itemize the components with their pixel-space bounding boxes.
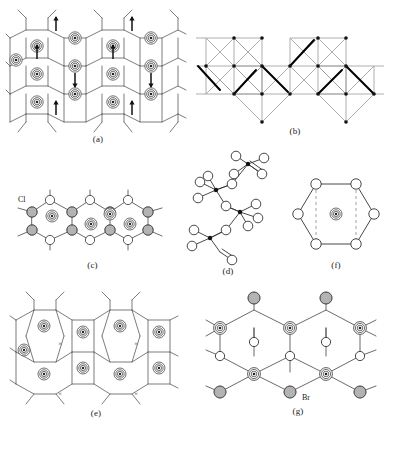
cross-marker: × bbox=[134, 340, 138, 348]
bullseye-site-centre bbox=[330, 208, 342, 220]
panel-b: (b) bbox=[200, 14, 390, 144]
arrow-marker-group bbox=[34, 16, 153, 115]
panel-e-caption: (e) bbox=[12, 408, 180, 418]
panel-a-caption: (a) bbox=[8, 134, 188, 144]
panel-d: (d) bbox=[176, 160, 280, 278]
panel-g-caption: (g) bbox=[206, 406, 390, 416]
bullseye-site-group bbox=[10, 32, 157, 108]
cross-marker-group: × × × × bbox=[58, 340, 138, 398]
cross-marker: × bbox=[58, 340, 62, 348]
br-label: Br bbox=[302, 393, 310, 402]
panel-a: (a) bbox=[8, 8, 188, 148]
bullseye-site-group bbox=[18, 320, 165, 380]
cross-marker: × bbox=[58, 390, 62, 398]
panel-f-caption: (f) bbox=[286, 260, 386, 270]
panel-d-caption: (d) bbox=[176, 266, 280, 276]
panel-c: Cl (c) bbox=[10, 182, 175, 274]
panel-b-caption: (b) bbox=[200, 126, 390, 136]
figure-sheet: (a) bbox=[0, 0, 399, 458]
panel-c-caption: (c) bbox=[10, 260, 175, 270]
panel-e: × × × × (e) bbox=[12, 296, 180, 421]
panel-g: Br (g) bbox=[206, 296, 390, 421]
panel-f: (f) bbox=[286, 172, 386, 272]
white-atom-group bbox=[187, 151, 269, 265]
bullseye-site-group bbox=[46, 208, 136, 230]
cl-label: Cl bbox=[18, 195, 26, 204]
cross-marker: × bbox=[134, 390, 138, 398]
